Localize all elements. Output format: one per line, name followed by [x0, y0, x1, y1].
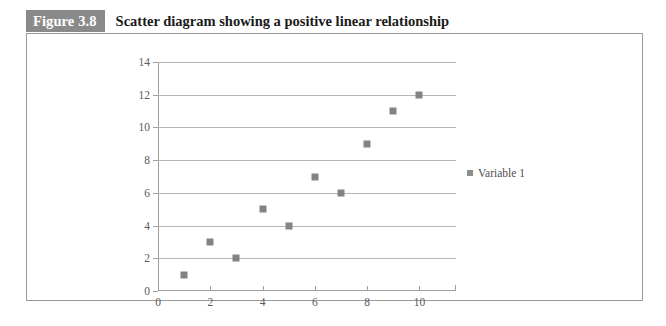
figure-header: Figure 3.8 Scatter diagram showing a pos… [26, 10, 449, 32]
x-axis-tick [315, 286, 316, 291]
x-axis-tick-label: 10 [414, 296, 426, 308]
y-axis-tick [153, 291, 158, 292]
y-axis-line [158, 62, 159, 291]
y-axis-tick-label: 6 [144, 187, 150, 199]
y-axis-tick [153, 127, 158, 128]
x-axis-tick-label: 0 [155, 296, 161, 308]
gridline [158, 95, 456, 96]
data-point [259, 206, 266, 213]
gridline [158, 226, 456, 227]
x-axis-tick [263, 286, 264, 291]
data-point [390, 108, 397, 115]
data-point [337, 189, 344, 196]
data-point [364, 140, 371, 147]
x-axis-tick-label: 8 [364, 296, 370, 308]
y-axis-tick-label: 8 [144, 154, 150, 166]
data-point [285, 222, 292, 229]
plot-area: 02468101214 0246810 [158, 62, 456, 291]
y-axis-tick-label: 10 [139, 121, 151, 133]
y-axis-tick-label: 0 [144, 285, 150, 297]
x-axis-end-tick [455, 285, 456, 291]
x-axis-tick-label: 4 [260, 296, 266, 308]
data-point [233, 255, 240, 262]
gridline [158, 160, 456, 161]
gridline [158, 62, 456, 63]
data-point [181, 271, 188, 278]
y-axis-tick [153, 193, 158, 194]
y-axis-tick [153, 226, 158, 227]
x-axis-tick [419, 286, 420, 291]
gridline [158, 127, 456, 128]
figure-caption: Scatter diagram showing a positive linea… [105, 10, 450, 32]
y-axis-tick-label: 12 [139, 89, 151, 101]
x-axis-line [158, 290, 456, 291]
chart-legend: Variable 1 [467, 167, 525, 179]
data-point [416, 91, 423, 98]
y-axis-tick-label: 4 [144, 220, 150, 232]
x-axis-tick-label: 2 [207, 296, 213, 308]
x-axis-tick [210, 286, 211, 291]
x-axis-tick [367, 286, 368, 291]
data-point [311, 173, 318, 180]
y-axis-tick [153, 258, 158, 259]
y-axis-tick [153, 95, 158, 96]
gridline [158, 193, 456, 194]
gridline [158, 258, 456, 259]
square-marker-icon [467, 170, 473, 176]
legend-entry-label: Variable 1 [478, 167, 525, 179]
figure-number-badge: Figure 3.8 [26, 10, 105, 32]
figure-panel: 02468101214 0246810 Variable 1 [26, 33, 643, 301]
y-axis-tick [153, 160, 158, 161]
y-axis-tick-label: 2 [144, 252, 150, 264]
y-axis-tick [153, 62, 158, 63]
y-axis-tick-label: 14 [139, 56, 151, 68]
x-axis-tick-label: 6 [312, 296, 318, 308]
data-point [207, 238, 214, 245]
scatter-chart: 02468101214 0246810 Variable 1 [27, 34, 644, 302]
